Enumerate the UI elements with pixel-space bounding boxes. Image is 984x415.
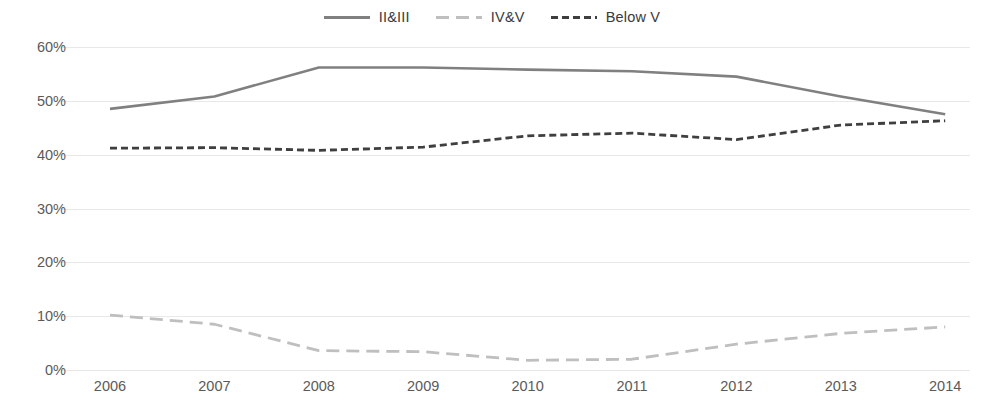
series-lines (0, 0, 984, 415)
series-line-ii-iii (110, 67, 945, 114)
series-line-below-v (110, 121, 945, 151)
series-line-iv-v (110, 315, 945, 360)
plot-area: 60%50%40%30%20%10%0% 2006200720082009201… (0, 0, 984, 415)
line-chart: II&III IV&V Below V 60%50%40%30%20%10%0%… (0, 0, 984, 415)
